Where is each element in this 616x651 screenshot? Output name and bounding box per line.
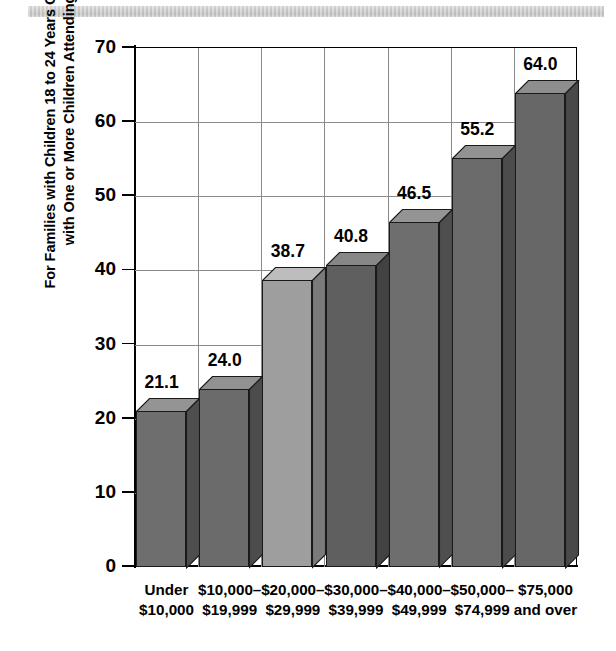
bar-front-face: [389, 222, 439, 567]
bar-value-label: 64.0: [509, 54, 572, 75]
bar: [515, 80, 578, 568]
bar: [326, 252, 389, 568]
y-axis-tick-mark: [122, 491, 135, 493]
bar-chart-figure: For Families with Children 18 to 24 Year…: [0, 0, 616, 651]
bar-side-face: [565, 80, 580, 570]
y-axis-tick-label: 30: [70, 333, 116, 355]
y-axis-tick-mark: [122, 46, 135, 48]
x-axis-category-label: $30,000– $39,999: [319, 580, 392, 620]
bar-value-label: 24.0: [193, 350, 256, 371]
y-axis-tick-mark: [122, 565, 135, 567]
bar-value-label: 55.2: [446, 119, 509, 140]
bar-value-label: 38.7: [256, 241, 319, 262]
bar-value-label: 40.8: [320, 226, 383, 247]
y-axis-tick-label: 70: [70, 36, 116, 58]
bar-front-face: [136, 411, 186, 567]
y-axis-tick-label: 20: [70, 407, 116, 429]
y-axis-tick-label: 0: [70, 555, 116, 577]
bar-value-label: 46.5: [383, 183, 446, 204]
y-axis-tick-mark: [122, 417, 135, 419]
y-axis-tick-mark: [122, 194, 135, 196]
bar-front-face: [452, 158, 502, 567]
plot-area: [135, 47, 577, 566]
y-axis-tick-label: 10: [70, 481, 116, 503]
bar: [136, 398, 199, 567]
bar: [389, 209, 452, 567]
y-axis-tick-label: 40: [70, 258, 116, 280]
bar-front-face: [326, 265, 376, 568]
bar-value-label: 21.1: [130, 372, 193, 393]
bar: [199, 376, 262, 567]
y-axis-tick-label: 50: [70, 184, 116, 206]
gridline-horizontal: [135, 122, 577, 123]
x-axis-category-label: $75,000 and over: [509, 580, 582, 620]
bar-front-face: [199, 389, 249, 567]
x-axis-category-label: $10,000– $19,999: [193, 580, 266, 620]
bar-front-face: [515, 93, 565, 568]
y-axis-tick-mark: [122, 269, 135, 271]
y-axis-tick-mark: [122, 343, 135, 345]
y-axis-tick-label: 60: [70, 110, 116, 132]
x-axis-category-label: $50,000– $74,999: [446, 580, 519, 620]
bar: [262, 267, 325, 567]
y-axis-tick-mark: [122, 120, 135, 122]
bar-front-face: [262, 280, 312, 567]
bar: [452, 145, 515, 567]
